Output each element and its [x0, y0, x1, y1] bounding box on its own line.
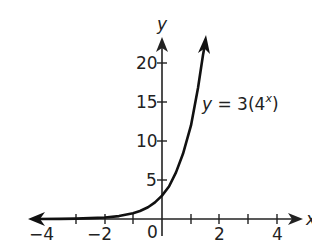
x-tick-label-2: 2 [214, 224, 225, 244]
equation-label: y = 3(4x) [201, 92, 279, 114]
y-tick-label-10: 10 [136, 131, 158, 151]
equation-close: ) [272, 94, 279, 114]
y-tick-label-5: 5 [146, 170, 157, 190]
x-axis-label: x [305, 209, 312, 229]
y-tick-label-20: 20 [136, 53, 158, 73]
equation-main: = 3(4 [212, 94, 265, 114]
x-tick-label-neg2: −2 [87, 224, 112, 244]
x-tick-label-4: 4 [272, 224, 283, 244]
x-tick-label-0: 0 [147, 222, 158, 242]
y-axis-label: y [156, 14, 168, 34]
y-tick-label-15: 15 [136, 92, 158, 112]
exponential-curve [36, 44, 205, 219]
exponential-graph: −4 −2 0 2 4 5 10 15 20 y x y = 3(4x) [0, 0, 312, 251]
x-tick-label-neg4: −4 [29, 224, 54, 244]
